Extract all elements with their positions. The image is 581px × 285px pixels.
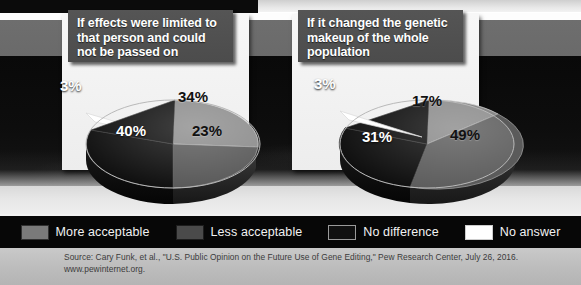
- source-note: Source: Cary Funk, et al., "U.S. Public …: [64, 252, 564, 275]
- pie-left-label-no-difference: 40%: [116, 122, 146, 139]
- pie-chart-limited-to-person: 34% 23% 40% 3%: [58, 64, 288, 214]
- legend-label-less-acceptable: Less acceptable: [211, 225, 303, 239]
- legend: More acceptable Less acceptable No diffe…: [0, 216, 581, 248]
- pie-chart-whole-population: 17% 49% 31% 3%: [312, 64, 542, 214]
- pie-left-label-no-answer: 3%: [60, 77, 82, 94]
- legend-label-more-acceptable: More acceptable: [56, 225, 150, 239]
- pie-right-label-more-acceptable: 17%: [412, 92, 442, 109]
- legend-item-less-acceptable: Less acceptable: [176, 225, 303, 240]
- legend-item-no-difference: No difference: [328, 225, 438, 240]
- legend-item-no-answer: No answer: [465, 225, 561, 240]
- legend-swatch-no-answer: [465, 225, 493, 240]
- source-line-2: www.pewinternet.org.: [64, 264, 564, 276]
- legend-label-no-difference: No difference: [363, 225, 438, 239]
- pie-left-gloss: [86, 100, 260, 188]
- infographic-poster: 34% 23% 40% 3%: [0, 0, 581, 285]
- pie-svg-right: [312, 64, 542, 214]
- pie-left-label-more-acceptable: 34%: [178, 88, 208, 105]
- chart-title-left-text: If effects were limited to that person a…: [77, 16, 225, 60]
- legend-item-more-acceptable: More acceptable: [21, 225, 150, 240]
- pie-right-label-no-difference: 31%: [362, 128, 392, 145]
- pie-svg-left: [58, 64, 288, 214]
- legend-label-no-answer: No answer: [500, 225, 561, 239]
- source-line-1: Source: Cary Funk, et al., "U.S. Public …: [64, 252, 564, 264]
- chart-title-right-text: If it changed the genetic makeup of the …: [307, 16, 455, 60]
- chart-title-card-left: If effects were limited to that person a…: [68, 10, 233, 62]
- legend-swatch-more-acceptable: [21, 225, 49, 240]
- chart-title-card-right: If it changed the genetic makeup of the …: [298, 10, 463, 62]
- pie-right-label-less-acceptable: 49%: [450, 126, 480, 143]
- legend-swatch-less-acceptable: [176, 225, 204, 240]
- pie-left-label-less-acceptable: 23%: [192, 122, 222, 139]
- pie-right-label-no-answer: 3%: [314, 75, 336, 92]
- legend-swatch-no-difference: [328, 225, 356, 240]
